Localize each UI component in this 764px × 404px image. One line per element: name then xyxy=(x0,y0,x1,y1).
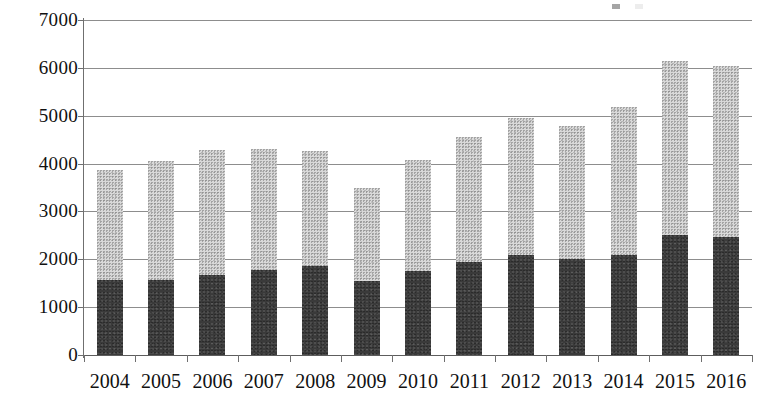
bar-group[interactable] xyxy=(251,20,277,355)
bar-segment[interactable] xyxy=(302,151,328,267)
bar-segment[interactable] xyxy=(97,170,123,280)
bar-group[interactable] xyxy=(456,20,482,355)
bar-group[interactable] xyxy=(611,20,637,355)
bar-segment[interactable] xyxy=(97,280,123,355)
x-axis-tick xyxy=(290,355,291,362)
bar-group[interactable] xyxy=(354,20,380,355)
legend-swatch-series-1 xyxy=(612,4,620,9)
bar-segment[interactable] xyxy=(508,255,534,355)
x-axis-tick xyxy=(238,355,239,362)
bar-segment[interactable] xyxy=(713,66,739,237)
x-axis-tick-label: 2009 xyxy=(341,369,392,393)
x-axis-tick xyxy=(649,355,650,362)
y-axis-tick-label: 4000 xyxy=(39,154,78,173)
x-axis-tick-label: 2007 xyxy=(238,369,289,393)
x-axis-tick xyxy=(495,355,496,362)
x-axis-tick-label: 2010 xyxy=(392,369,443,393)
bar-segment[interactable] xyxy=(148,161,174,280)
bar-group[interactable] xyxy=(713,20,739,355)
bar-segment[interactable] xyxy=(251,149,277,270)
x-axis-tick xyxy=(752,355,753,362)
bar-segment[interactable] xyxy=(199,275,225,355)
bar-segment[interactable] xyxy=(405,271,431,355)
bar-segment[interactable] xyxy=(148,280,174,355)
bar-segment[interactable] xyxy=(559,259,585,355)
bar-segment[interactable] xyxy=(354,188,380,281)
x-axis-tick-label: 2013 xyxy=(546,369,597,393)
x-axis-tick xyxy=(701,355,702,362)
x-axis-tick-label: 2005 xyxy=(135,369,186,393)
bar-group[interactable] xyxy=(97,20,123,355)
bar-group[interactable] xyxy=(559,20,585,355)
y-axis-tick-label: 6000 xyxy=(39,58,78,77)
bar-group[interactable] xyxy=(148,20,174,355)
x-axis-tick xyxy=(135,355,136,362)
x-axis-tick-label: 2006 xyxy=(187,369,238,393)
bar-segment[interactable] xyxy=(456,137,482,261)
x-axis-tick xyxy=(598,355,599,362)
bar-group[interactable] xyxy=(405,20,431,355)
x-axis-tick-label: 2011 xyxy=(444,369,495,393)
bar-segment[interactable] xyxy=(456,262,482,355)
y-axis-tick-label: 5000 xyxy=(39,106,78,125)
y-axis-tick-label: 0 xyxy=(68,345,78,364)
bar-group[interactable] xyxy=(508,20,534,355)
x-axis-tick xyxy=(84,355,85,362)
bar-segment[interactable] xyxy=(611,107,637,255)
bar-segment[interactable] xyxy=(611,255,637,356)
x-axis-tick-label: 2015 xyxy=(649,369,700,393)
bar-segment[interactable] xyxy=(559,126,585,260)
x-axis-tick-label: 2008 xyxy=(290,369,341,393)
bar-segment[interactable] xyxy=(508,118,534,255)
x-axis-tick-label: 2012 xyxy=(495,369,546,393)
x-axis-tick xyxy=(341,355,342,362)
y-axis-tick-label: 3000 xyxy=(39,201,78,220)
bar-group[interactable] xyxy=(662,20,688,355)
bar-segment[interactable] xyxy=(662,61,688,236)
x-axis-tick xyxy=(546,355,547,362)
stacked-bar-chart: 01000200030004000500060007000 2004200520… xyxy=(0,0,764,404)
bar-segment[interactable] xyxy=(662,235,688,355)
x-axis-labels: 2004200520062007200820092010201120122013… xyxy=(84,369,752,399)
y-axis-tick-label: 1000 xyxy=(39,297,78,316)
y-axis-tick-label: 7000 xyxy=(39,10,78,29)
bar-group[interactable] xyxy=(199,20,225,355)
bar-segment[interactable] xyxy=(713,237,739,355)
legend-swatch-series-2 xyxy=(635,4,643,9)
bar-segment[interactable] xyxy=(251,270,277,355)
x-axis-tick-label: 2014 xyxy=(598,369,649,393)
x-axis-tick-label: 2016 xyxy=(701,369,752,393)
x-axis-tick xyxy=(444,355,445,362)
plot-area xyxy=(84,20,752,355)
legend-entry xyxy=(612,0,623,9)
x-axis-ticks xyxy=(84,355,752,363)
bar-segment[interactable] xyxy=(405,160,431,271)
bar-segment[interactable] xyxy=(354,281,380,355)
x-axis-tick-label: 2004 xyxy=(84,369,135,393)
bar-segment[interactable] xyxy=(302,266,328,355)
y-axis-tick-label: 2000 xyxy=(39,249,78,268)
x-axis-tick xyxy=(392,355,393,362)
x-axis-tick xyxy=(187,355,188,362)
bar-group[interactable] xyxy=(302,20,328,355)
chart-legend xyxy=(612,0,762,9)
bar-segment[interactable] xyxy=(199,150,225,274)
legend-entry xyxy=(635,0,646,9)
